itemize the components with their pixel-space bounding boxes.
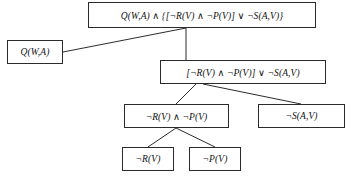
- node-right-disjunct: ¬S(A,V): [258, 104, 345, 128]
- node-right-disjunct-label: ¬S(A,V): [285, 111, 317, 121]
- edge-leftdisj-leafr: [148, 128, 176, 147]
- node-left-conjunct: Q(W,A): [7, 40, 63, 64]
- edge-right-leftdisj: [176, 84, 196, 104]
- node-leaf-not-p-label: ¬P(V): [203, 154, 228, 164]
- node-leaf-not-p: ¬P(V): [189, 147, 241, 171]
- node-leaf-not-r-label: ¬R(V): [136, 154, 161, 164]
- node-left-disjunct: ¬R(V) ∧ ¬P(V): [124, 104, 229, 128]
- edge-root-left: [63, 28, 186, 52]
- node-right-conjunct-label: [¬R(V) ∧ ¬P(V)] ∨ ¬S(A,V): [186, 67, 299, 78]
- edge-right-rightdisj: [203, 84, 301, 104]
- node-root: Q(W,A) ∧ {[¬R(V) ∧ ¬P(V)] ∨ ¬S(A,V)}: [88, 2, 316, 28]
- node-leaf-not-r: ¬R(V): [122, 147, 174, 171]
- node-left-disjunct-label: ¬R(V) ∧ ¬P(V): [146, 111, 208, 122]
- node-left-conjunct-label: Q(W,A): [20, 47, 49, 57]
- diagram-canvas: Q(W,A) ∧ {[¬R(V) ∧ ¬P(V)] ∨ ¬S(A,V)} Q(W…: [0, 0, 356, 178]
- node-root-label: Q(W,A) ∧ {[¬R(V) ∧ ¬P(V)] ∨ ¬S(A,V)}: [121, 10, 283, 21]
- edge-leftdisj-leafp: [176, 128, 215, 147]
- node-right-conjunct: [¬R(V) ∧ ¬P(V)] ∨ ¬S(A,V): [160, 60, 326, 84]
